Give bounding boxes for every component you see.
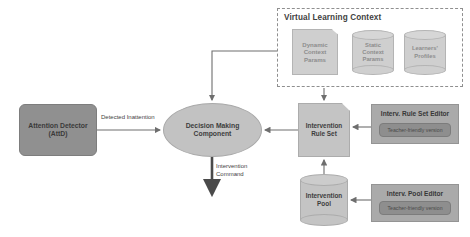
- edge-context-to-decision: [212, 51, 277, 100]
- label-line-2: (AttD): [49, 130, 68, 138]
- cylinder-bottom: [404, 65, 446, 75]
- editor-inner-panel: Teacher-friendly version: [379, 201, 451, 215]
- editor-title: Interv. Rule Set Editor: [372, 110, 458, 117]
- node-intervention-pool: Intervention Pool: [300, 174, 348, 226]
- node-learners-profiles: Learners' Profiles: [404, 30, 446, 75]
- node-interv-pool-editor: Interv. Pool Editor Teacher-friendly ver…: [371, 184, 459, 222]
- editor-inner-panel: Teacher-friendly version: [379, 123, 451, 137]
- diagram-canvas: Virtual Learning Context Dynamic Context…: [0, 0, 470, 237]
- cylinder-top: [300, 174, 348, 186]
- document-shape: [298, 103, 350, 157]
- node-label: Attention Detector (AttD): [20, 105, 96, 155]
- virtual-learning-context-title: Virtual Learning Context: [284, 13, 381, 22]
- node-static-context-params: Static Context Params: [352, 30, 394, 75]
- cylinder-top: [404, 30, 446, 40]
- node-interv-rule-set-editor: Interv. Rule Set Editor Teacher-friendly…: [371, 104, 459, 144]
- label-line-2: Command: [216, 171, 247, 179]
- cylinder-top: [352, 30, 394, 40]
- editor-title: Interv. Pool Editor: [372, 190, 458, 197]
- label-line-1: Attention Detector: [28, 122, 87, 130]
- node-dynamic-context-params: Dynamic Context Params: [292, 29, 338, 75]
- edge-label-intervention-command: Intervention Command: [216, 163, 247, 179]
- label-line-1: Decision Making: [186, 122, 240, 130]
- node-intervention-rule-set: Intervention Rule Set: [298, 103, 350, 157]
- node-attention-detector: Attention Detector (AttD): [19, 104, 97, 156]
- document-shape: [292, 29, 338, 75]
- cylinder-bottom: [300, 214, 348, 226]
- label-line-2: Component: [194, 130, 232, 138]
- cylinder-bottom: [352, 65, 394, 75]
- edge-label-detected-inattention: Detected Inattention: [101, 114, 155, 122]
- node-decision-making-component: Decision Making Component: [163, 103, 262, 157]
- label-line-1: Intervention: [216, 163, 247, 171]
- node-label: Decision Making Component: [164, 104, 261, 156]
